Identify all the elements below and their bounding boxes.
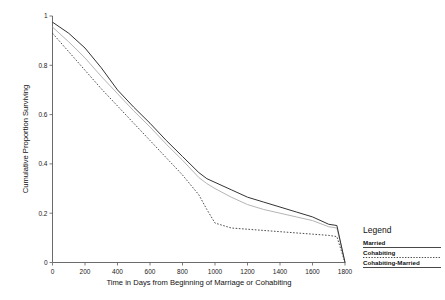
legend-label-married: Married: [363, 239, 386, 246]
x-tick-label: 600: [145, 268, 156, 275]
x-tick-label: 1200: [240, 268, 255, 275]
y-axis-ticks: 00.20.40.60.81: [38, 12, 52, 266]
x-tick-label: 0: [51, 268, 55, 275]
y-tick-label: 0.8: [38, 62, 47, 69]
y-tick-label: 0.6: [38, 111, 47, 118]
legend-label-cohabiting: Cohabiting: [363, 249, 396, 256]
legend-label-cohabiting-married: Cohabiting-Married: [363, 259, 420, 266]
curve-cohabiting: [53, 33, 346, 262]
y-tick-label: 0: [44, 259, 48, 266]
legend: Legend Married Cohabiting Cohabiting-Mar…: [363, 225, 441, 268]
y-tick-label: 0.2: [38, 210, 47, 217]
x-tick-label: 200: [80, 268, 91, 275]
x-tick-label: 400: [112, 268, 123, 275]
x-tick-label: 1600: [305, 268, 320, 275]
survival-curve-figure: 00.20.40.60.81 0200400600800100012001400…: [0, 0, 445, 300]
chart-canvas: 00.20.40.60.81 0200400600800100012001400…: [0, 0, 445, 300]
x-tick-label: 1000: [208, 268, 223, 275]
x-axis-title: Time in Days from Beginning of Marriage …: [106, 278, 291, 287]
axis-lines: [53, 16, 346, 263]
x-tick-label: 800: [177, 268, 188, 275]
curve-married: [53, 22, 346, 262]
data-curves: [53, 22, 346, 262]
legend-title: Legend: [363, 225, 392, 235]
y-axis-title: Cumulative Proportion Surviving: [21, 85, 30, 193]
x-axis-ticks: 020040060080010001200140016001800: [51, 263, 353, 275]
x-tick-label: 1800: [338, 268, 353, 275]
x-tick-label: 1400: [273, 268, 288, 275]
y-tick-label: 0.4: [38, 160, 47, 167]
y-tick-label: 1: [44, 12, 48, 19]
